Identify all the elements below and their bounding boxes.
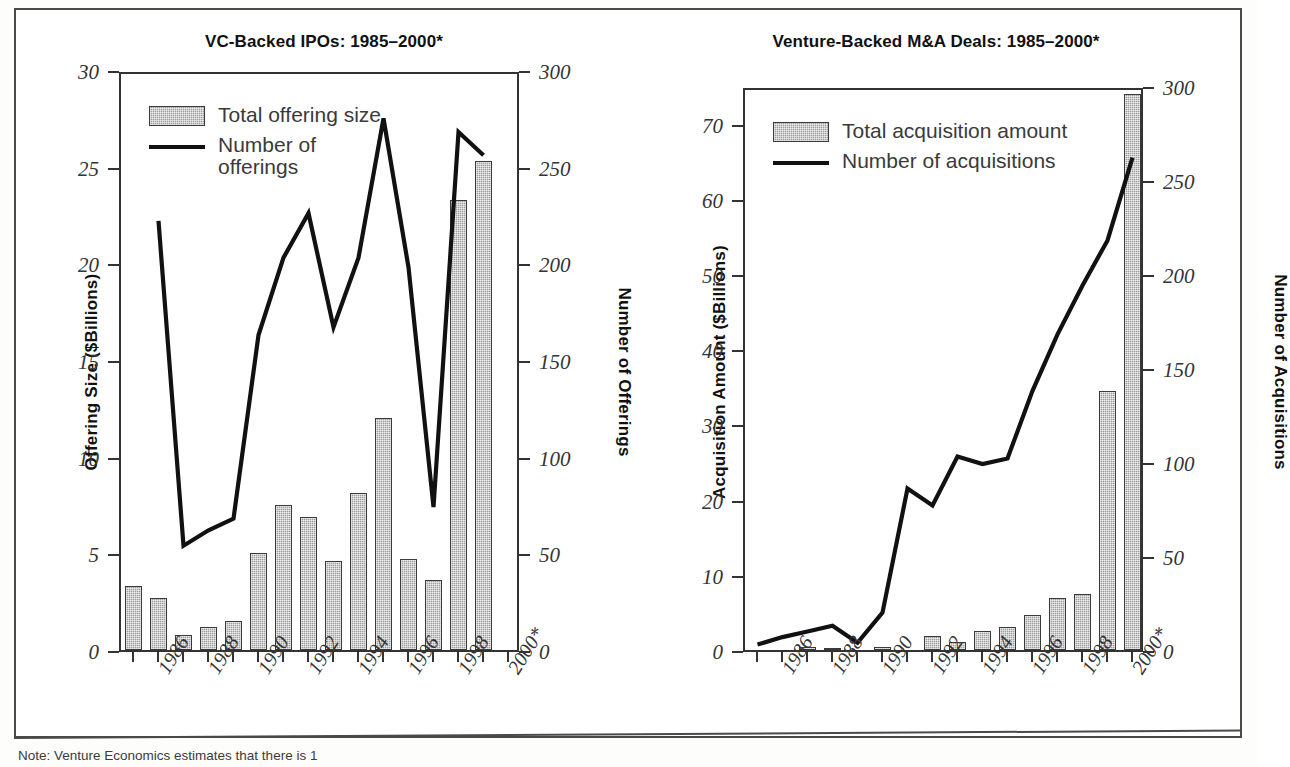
y-axis-tick-label: 10 bbox=[51, 446, 99, 471]
x-axis-tickmark bbox=[1106, 652, 1108, 662]
y-axis-tickmark bbox=[108, 651, 119, 653]
chart-vc-backed-ipos: VC-Backed IPOs: 1985–2000* Offering Size… bbox=[24, 22, 624, 742]
x-axis-tickmark bbox=[132, 652, 134, 662]
legend-item-bar: Total offering size bbox=[149, 104, 381, 127]
y2-axis-tickmark bbox=[519, 71, 530, 73]
y-axis-tickmark bbox=[732, 651, 743, 653]
y2-axis-tickmark bbox=[519, 264, 530, 266]
y-axis-tick-label: 70 bbox=[675, 113, 723, 138]
legend-line-swatch-icon bbox=[773, 152, 829, 172]
x-axis-tickmark bbox=[382, 652, 384, 662]
y2-axis-tick-label: 200 bbox=[1163, 264, 1195, 289]
y-axis-tickmark bbox=[732, 125, 743, 127]
x-axis-tickmark bbox=[182, 652, 184, 662]
y-axis-tickmark bbox=[732, 350, 743, 352]
y-axis-tick-label: 50 bbox=[675, 264, 723, 289]
x-axis-tickmark bbox=[806, 652, 808, 662]
y-axis-tick-label: 30 bbox=[51, 60, 99, 85]
y-axis-tick-label: 5 bbox=[51, 543, 99, 568]
x-axis-tickmark bbox=[956, 652, 958, 662]
y-axis-tick-label: 0 bbox=[675, 640, 723, 665]
y2-axis-tickmark bbox=[1143, 463, 1154, 465]
y-axis-tickmark bbox=[732, 200, 743, 202]
y-axis-tick-label: 40 bbox=[675, 339, 723, 364]
y-axis-tickmark bbox=[732, 576, 743, 578]
y-axis-tick-label: 10 bbox=[675, 564, 723, 589]
y-axis-tickmark bbox=[108, 361, 119, 363]
y2-axis-tick-label: 250 bbox=[1163, 170, 1195, 195]
y2-axis-tickmark bbox=[1143, 557, 1154, 559]
x-axis-tickmark bbox=[756, 652, 758, 662]
chart-legend: Total offering size Number of offerings bbox=[149, 104, 381, 186]
y2-axis-tickmark bbox=[519, 168, 530, 170]
chart-title: VC-Backed IPOs: 1985–2000* bbox=[24, 32, 624, 52]
chart-venture-backed-ma-deals: Venture-Backed M&A Deals: 1985–2000* Acq… bbox=[648, 22, 1248, 742]
y-axis-tick-label: 60 bbox=[675, 188, 723, 213]
x-axis-tickmark bbox=[332, 652, 334, 662]
chart-title: Venture-Backed M&A Deals: 1985–2000* bbox=[636, 32, 1236, 52]
line-path bbox=[758, 158, 1133, 645]
y-axis-tick-label: 0 bbox=[51, 640, 99, 665]
y-axis-tickmark bbox=[108, 168, 119, 170]
x-axis-tickmark bbox=[856, 652, 858, 662]
legend-bar-swatch-icon bbox=[773, 122, 829, 142]
figure-note: Note: Venture Economics estimates that t… bbox=[18, 748, 317, 767]
y2-axis-tickmark bbox=[519, 361, 530, 363]
y2-axis-tickmark bbox=[519, 458, 530, 460]
y-axis-tick-label: 30 bbox=[675, 414, 723, 439]
legend-item-bar: Total acquisition amount bbox=[773, 120, 1067, 143]
y2-axis-tickmark bbox=[1143, 369, 1154, 371]
legend-line-swatch-icon bbox=[149, 136, 205, 156]
y-axis-tick-label: 20 bbox=[675, 489, 723, 514]
y2-axis-tick-label: 300 bbox=[539, 60, 571, 85]
y-axis-tickmark bbox=[108, 71, 119, 73]
right-axis-title: Number of Offerings bbox=[614, 222, 634, 522]
y2-axis-tick-label: 150 bbox=[539, 350, 571, 375]
legend-item-line: Number of acquisitions bbox=[773, 150, 1067, 173]
y2-axis-tickmark bbox=[519, 554, 530, 556]
x-axis-tickmark bbox=[1006, 652, 1008, 662]
y-axis-tickmark bbox=[732, 425, 743, 427]
chart-legend: Total acquisition amount Number of acqui… bbox=[773, 120, 1067, 179]
y2-axis-tick-label: 50 bbox=[539, 543, 560, 568]
y-axis-tickmark bbox=[108, 554, 119, 556]
x-axis-tickmark bbox=[482, 652, 484, 662]
y-axis-tickmark bbox=[108, 264, 119, 266]
y2-axis-tickmark bbox=[1143, 275, 1154, 277]
x-axis-tickmark bbox=[1056, 652, 1058, 662]
y2-axis-tick-label: 100 bbox=[539, 446, 571, 471]
y2-axis-tick-label: 300 bbox=[1163, 76, 1195, 101]
right-axis-title: Number of Acquisitions bbox=[1270, 192, 1290, 552]
y-axis-tickmark bbox=[732, 275, 743, 277]
x-axis-tickmark bbox=[432, 652, 434, 662]
y2-axis-tick-label: 50 bbox=[1163, 546, 1184, 571]
x-axis-tickmark bbox=[282, 652, 284, 662]
legend-line-label: Number of acquisitions bbox=[842, 150, 1056, 173]
y2-axis-tick-label: 200 bbox=[539, 253, 571, 278]
y-axis-tick-label: 15 bbox=[51, 350, 99, 375]
y-axis-tickmark bbox=[108, 458, 119, 460]
legend-item-line: Number of offerings bbox=[149, 134, 381, 179]
legend-bar-label: Total offering size bbox=[218, 104, 381, 127]
y2-axis-tick-label: 150 bbox=[1163, 358, 1195, 383]
x-axis-tickmark bbox=[906, 652, 908, 662]
y2-axis-tick-label: 250 bbox=[539, 156, 571, 181]
y-axis-tick-label: 20 bbox=[51, 253, 99, 278]
y-axis-tick-label: 25 bbox=[51, 156, 99, 181]
x-axis-tickmark bbox=[232, 652, 234, 662]
legend-bar-swatch-icon bbox=[149, 106, 205, 126]
legend-bar-label: Total acquisition amount bbox=[842, 120, 1067, 143]
legend-line-label: Number of offerings bbox=[218, 134, 316, 179]
y-axis-tickmark bbox=[732, 501, 743, 503]
y2-axis-tickmark bbox=[1143, 181, 1154, 183]
y2-axis-tick-label: 100 bbox=[1163, 452, 1195, 477]
y2-axis-tickmark bbox=[1143, 87, 1154, 89]
